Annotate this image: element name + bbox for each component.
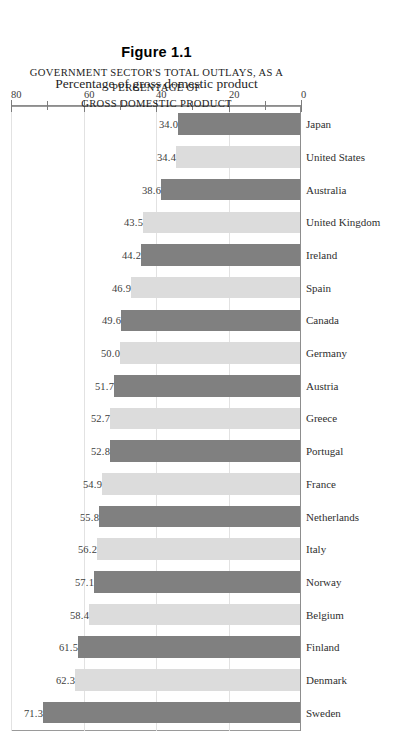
category-label-austria: Austria — [306, 380, 338, 392]
bar-value-label: 58.4 — [70, 609, 89, 620]
bar-slot: 52.7 — [11, 402, 301, 435]
bar-slot: 52.8 — [11, 435, 301, 468]
plot-area: 71.362.361.558.457.156.255.854.952.852.7… — [11, 106, 301, 731]
category-slot: Denmark — [303, 664, 399, 697]
bar-slot: 56.2 — [11, 533, 301, 566]
bar-value-label: 57.1 — [75, 576, 94, 587]
bar-denmark — [75, 669, 301, 691]
category-slot: Spain — [303, 271, 399, 304]
bar-value-label: 54.9 — [83, 478, 102, 489]
category-label-ireland: Ireland — [306, 249, 337, 261]
category-axis-labels: SwedenDenmarkFinlandBelgiumNorwayItalyNe… — [303, 106, 399, 731]
category-label-denmark: Denmark — [306, 674, 347, 686]
bar-value-label: 43.5 — [124, 217, 143, 228]
bar-value-label: 52.8 — [91, 446, 110, 457]
category-slot: Finland — [303, 631, 399, 664]
category-slot: Germany — [303, 337, 399, 370]
category-label-portugal: Portugal — [306, 445, 343, 457]
category-label-netherlands: Netherlands — [306, 511, 359, 523]
category-slot: France — [303, 468, 399, 501]
category-slot: Japan — [303, 108, 399, 141]
bar-slot: 44.2 — [11, 239, 301, 272]
category-slot: United Kingdom — [303, 206, 399, 239]
bar-slot: 58.4 — [11, 598, 301, 631]
bar-france — [102, 473, 301, 495]
bar-value-label: 49.6 — [102, 315, 121, 326]
category-slot: United States — [303, 141, 399, 174]
bar-austria — [114, 375, 301, 397]
bar-value-label: 56.2 — [78, 544, 97, 555]
bar-united-kingdom — [143, 212, 301, 234]
bar-netherlands — [99, 506, 301, 528]
bar-value-label: 44.2 — [122, 250, 141, 261]
category-label-canada: Canada — [306, 314, 339, 326]
category-label-spain: Spain — [306, 282, 331, 294]
rotated-figure-stage: 71.362.361.558.457.156.255.854.952.852.7… — [0, 0, 402, 744]
bar-norway — [94, 571, 301, 593]
category-slot: Austria — [303, 369, 399, 402]
bar-value-label: 55.8 — [80, 511, 99, 522]
bar-slot: 71.3 — [11, 696, 301, 729]
category-label-germany: Germany — [306, 347, 347, 359]
category-label-belgium: Belgium — [306, 609, 344, 621]
category-label-united-states: United States — [306, 151, 365, 163]
bar-slot: 34.0 — [11, 108, 301, 141]
category-slot: Italy — [303, 533, 399, 566]
category-label-italy: Italy — [306, 543, 326, 555]
bar-value-label: 50.0 — [101, 348, 120, 359]
category-label-japan: Japan — [306, 118, 331, 130]
axis-baseline — [300, 106, 301, 731]
category-slot: Norway — [303, 566, 399, 599]
category-slot: Netherlands — [303, 500, 399, 533]
bar-value-label: 34.0 — [159, 119, 178, 130]
bar-greece — [110, 408, 301, 430]
bar-value-label: 52.7 — [91, 413, 110, 424]
category-label-norway: Norway — [306, 576, 341, 588]
bar-italy — [97, 538, 301, 560]
bar-finland — [78, 637, 301, 659]
bar-value-label: 71.3 — [23, 707, 42, 718]
bar-slot: 50.0 — [11, 337, 301, 370]
figure-number: Figure 1.1 — [11, 44, 302, 60]
bar-portugal — [110, 440, 301, 462]
bar-sweden — [43, 702, 301, 724]
bar-value-label: 46.9 — [112, 282, 131, 293]
category-slot: Portugal — [303, 435, 399, 468]
figure-caption-line-2: GROSS DOMESTIC PRODUCT — [11, 96, 302, 111]
bar-slot: 54.9 — [11, 468, 301, 501]
bar-australia — [161, 179, 301, 201]
bar-value-label: 38.6 — [142, 184, 161, 195]
bar-value-label: 61.5 — [59, 642, 78, 653]
bar-slot: 34.4 — [11, 141, 301, 174]
bar-slot: 43.5 — [11, 206, 301, 239]
bar-slot: 61.5 — [11, 631, 301, 664]
bar-slot: 55.8 — [11, 500, 301, 533]
category-slot: Australia — [303, 173, 399, 206]
bar-japan — [178, 114, 301, 136]
bar-germany — [120, 342, 301, 364]
bar-series: 71.362.361.558.457.156.255.854.952.852.7… — [11, 106, 301, 731]
bar-value-label: 62.3 — [56, 674, 75, 685]
category-label-sweden: Sweden — [306, 707, 341, 719]
bar-belgium — [89, 604, 301, 626]
category-slot: Belgium — [303, 598, 399, 631]
bar-slot: 57.1 — [11, 566, 301, 599]
category-label-france: France — [306, 478, 336, 490]
bar-canada — [121, 310, 301, 332]
bar-slot: 38.6 — [11, 173, 301, 206]
category-slot: Canada — [303, 304, 399, 337]
figure-caption-block: Figure 1.1 GOVERNMENT SECTOR'S TOTAL OUT… — [11, 44, 302, 111]
bar-value-label: 34.4 — [157, 151, 176, 162]
bar-slot: 51.7 — [11, 369, 301, 402]
bar-value-label: 51.7 — [95, 380, 114, 391]
bar-united-states — [176, 146, 301, 168]
bar-slot: 46.9 — [11, 271, 301, 304]
category-slot: Ireland — [303, 239, 399, 272]
category-label-finland: Finland — [306, 641, 340, 653]
figure-caption-line-1: GOVERNMENT SECTOR'S TOTAL OUTLAYS, AS A … — [11, 65, 302, 96]
category-label-greece: Greece — [306, 412, 337, 424]
bar-spain — [131, 277, 301, 299]
category-slot: Greece — [303, 402, 399, 435]
category-label-australia: Australia — [306, 184, 346, 196]
category-label-united-kingdom: United Kingdom — [306, 216, 380, 228]
